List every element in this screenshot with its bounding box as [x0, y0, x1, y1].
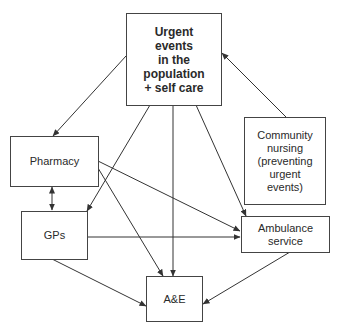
- node-gps-label: GPs: [44, 229, 65, 242]
- node-urgent-events-label: Urgent events in the population + self c…: [143, 25, 204, 95]
- edge-ambulance-to-ae: [203, 252, 290, 304]
- node-pharmacy: Pharmacy: [10, 136, 99, 187]
- node-community-nursing: Community nursing (preventing urgent eve…: [244, 117, 326, 205]
- node-ae: A&E: [146, 276, 203, 322]
- edge-pharmacy-to-ambulance: [98, 161, 240, 231]
- edge-pharmacy-to-ae: [98, 168, 163, 276]
- node-urgent-events: Urgent events in the population + self c…: [126, 13, 222, 106]
- edge-urgent-to-ambulance: [196, 105, 246, 216]
- edge-gps-to-ae: [52, 259, 146, 306]
- node-ambulance-service: Ambulance service: [241, 216, 330, 253]
- node-ambulance-service-label: Ambulance service: [258, 222, 313, 248]
- edge-community-to-urgent: [222, 53, 286, 117]
- node-pharmacy-label: Pharmacy: [30, 155, 80, 168]
- node-community-nursing-label: Community nursing (preventing urgent eve…: [257, 129, 313, 194]
- node-ae-label: A&E: [163, 293, 185, 306]
- edge-urgent-to-pharmacy: [53, 56, 126, 136]
- node-gps: GPs: [21, 211, 88, 260]
